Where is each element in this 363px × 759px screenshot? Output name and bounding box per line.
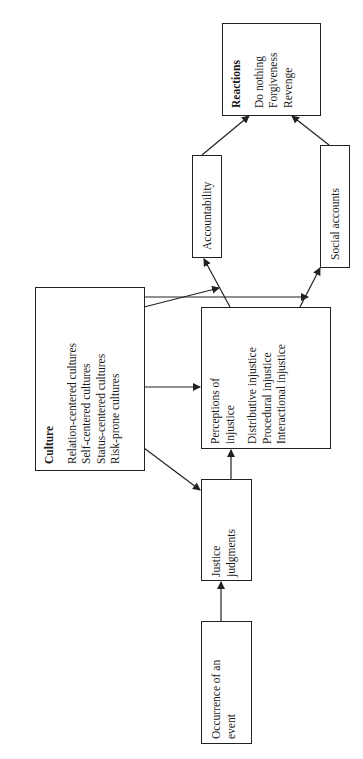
reactions-content: Reactions Do nothing Forgiveness Revenge (229, 53, 295, 108)
justice-judgments-content: Justice judgments (209, 529, 238, 577)
reactions-title: Reactions (229, 53, 244, 108)
social-accounts-box: Social accounts (320, 145, 350, 268)
occurrence-line: Occurrence of an (209, 660, 224, 739)
occurrence-line: event (224, 660, 239, 739)
perceptions-item: Procedural injustice (260, 344, 275, 444)
culture-title: Culture (42, 343, 57, 464)
culture-box: Culture Relation-centered cultures Self-… (35, 287, 145, 471)
social-accounts-label: Social accounts (328, 188, 343, 260)
occurrence-content: Occurrence of an event (209, 660, 238, 739)
arrow-accountability-to-reactions (202, 116, 249, 155)
perceptions-item: Interactional injustice (274, 344, 289, 444)
culture-item: Self-centered cultures (79, 343, 94, 464)
accountability-box: Accountability (192, 155, 222, 258)
arrow-perceptions-to-accountability (204, 259, 230, 307)
reactions-item: Revenge (281, 53, 296, 108)
culture-content: Culture Relation-centered cultures Self-… (42, 343, 123, 464)
justice-judgments-line: judgments (224, 529, 239, 577)
perceptions-title-line: injustice (223, 344, 238, 444)
arrow-social-to-reactions (292, 116, 329, 145)
culture-item: Status-centered cultures (94, 343, 109, 464)
reactions-item: Forgiveness (266, 53, 281, 108)
occurrence-box: Occurrence of an event (201, 621, 252, 744)
perceptions-content: Perceptions of injustice Distributive in… (208, 344, 289, 444)
reactions-item: Do nothing (252, 53, 267, 108)
perceptions-box: Perceptions of injustice Distributive in… (201, 307, 331, 449)
culture-item: Relation-centered cultures (65, 343, 80, 464)
justice-judgments-box: Justice judgments (201, 479, 252, 581)
reactions-box: Reactions Do nothing Forgiveness Revenge (222, 23, 321, 116)
culture-item: Risk-prone cultures (108, 343, 123, 464)
accountability-label: Accountability (200, 182, 215, 250)
perceptions-item: Distributive injustice (245, 344, 260, 444)
justice-judgments-line: Justice (209, 529, 224, 577)
arrow-culture-to-justice (144, 448, 200, 490)
arrow-perceptions-to-social (300, 268, 320, 307)
perceptions-title-line: Perceptions of (208, 344, 223, 444)
